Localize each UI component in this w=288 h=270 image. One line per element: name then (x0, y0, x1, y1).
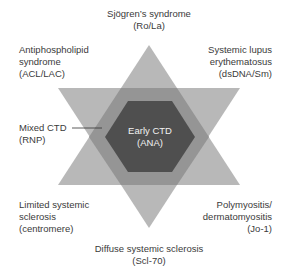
center-label: Early CTD (ANA) (115, 125, 185, 149)
center-label-line1: Early CTD (115, 125, 185, 137)
sjogren-line1: Sjögren’s syndrome (84, 8, 214, 20)
polymyositis-label: Polymyositis/ dermatomyositis (Jo-1) (203, 199, 272, 235)
limited-ss-line1: Limited systemic (19, 199, 89, 211)
antiphospholipid-label: Antiphospholipid syndrome (ACL/LAC) (19, 44, 89, 80)
diffuse-ss-line1: Diffuse systemic sclerosis (74, 243, 224, 255)
sjogren-line2: (Ro/La) (84, 20, 214, 32)
antiphospholipid-line2: syndrome (19, 56, 89, 68)
antiphospholipid-line1: Antiphospholipid (19, 44, 89, 56)
mixed-ctd-line2: (RNP) (19, 134, 67, 146)
limited-ss-line2: sclerosis (19, 211, 89, 223)
mixed-ctd-line1: Mixed CTD (19, 122, 67, 134)
polymyositis-line3: (Jo-1) (203, 223, 272, 235)
sle-label: Systemic lupus erythematosus (dsDNA/Sm) (208, 44, 272, 80)
mixed-ctd-label: Mixed CTD (RNP) (19, 122, 67, 146)
diffuse-ss-label: Diffuse systemic sclerosis (Scl-70) (74, 243, 224, 267)
sle-line3: (dsDNA/Sm) (208, 68, 272, 80)
polymyositis-line2: dermatomyositis (203, 211, 272, 223)
diffuse-ss-line2: (Scl-70) (74, 255, 224, 267)
limited-ss-label: Limited systemic sclerosis (centromere) (19, 199, 89, 235)
sle-line2: erythematosus (208, 56, 272, 68)
sjogren-label: Sjögren’s syndrome (Ro/La) (84, 8, 214, 32)
polymyositis-line1: Polymyositis/ (203, 199, 272, 211)
center-label-line2: (ANA) (115, 137, 185, 149)
antiphospholipid-line3: (ACL/LAC) (19, 68, 89, 80)
sle-line1: Systemic lupus (208, 44, 272, 56)
limited-ss-line3: (centromere) (19, 223, 89, 235)
